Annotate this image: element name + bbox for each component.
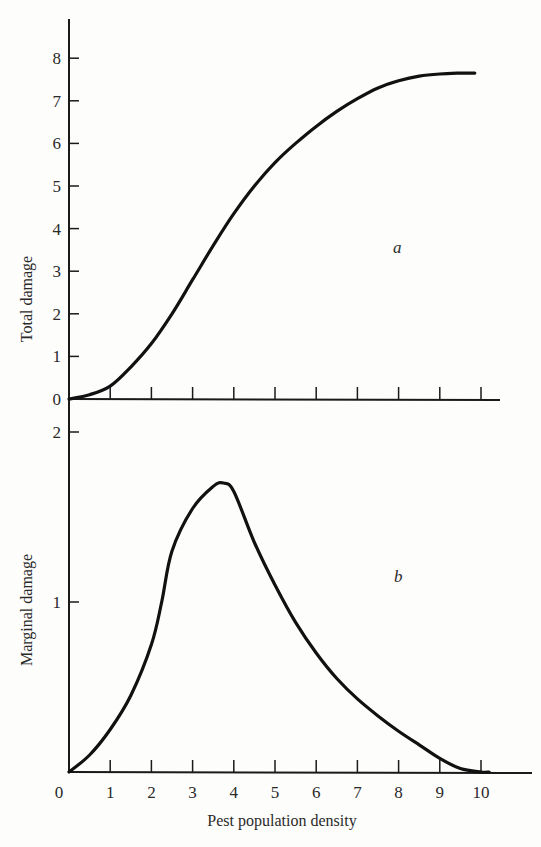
bottom-y-axis-title: Marginal damage: [18, 554, 36, 666]
x-tick-label: 3: [188, 783, 197, 802]
y-tick-label: 7: [53, 92, 62, 111]
panel-label-a: a: [393, 238, 402, 257]
top-x-ticks: [110, 387, 481, 399]
y-tick-label: 0: [53, 390, 62, 409]
y-tick-label: 4: [53, 220, 62, 239]
x-tick-label: 7: [353, 783, 362, 802]
x-tick-label: 6: [312, 783, 321, 802]
marginal-damage-curve: [69, 483, 489, 773]
y-tick-label: 2: [53, 305, 62, 324]
y-tick-label: 3: [53, 262, 62, 281]
bottom-x-axis: [69, 772, 532, 773]
x-axis-title: Pest population density: [207, 812, 356, 830]
bottom-y-ticks: 12: [53, 423, 80, 612]
top-y-ticks: 012345678: [53, 49, 80, 409]
damage-chart: 012345678 12 012345678910 Total damage M…: [0, 0, 541, 847]
y-tick-label: 2: [53, 423, 62, 442]
y-tick-label: 1: [53, 347, 62, 366]
x-tick-label: 5: [271, 783, 280, 802]
x-tick-label: 4: [230, 783, 239, 802]
total-damage-curve: [69, 73, 475, 399]
panel-label-b: b: [394, 567, 403, 586]
x-tick-label: 10: [473, 783, 490, 802]
y-tick-label: 5: [53, 177, 62, 196]
top-y-axis-title: Total damage: [18, 256, 36, 342]
x-tick-label: 9: [436, 783, 445, 802]
x-tick-label: 2: [147, 783, 156, 802]
top-x-axis: [69, 399, 500, 400]
y-tick-label: 8: [53, 49, 62, 68]
y-tick-label: 1: [53, 593, 62, 612]
x-tick-label: 1: [106, 783, 115, 802]
x-tick-label: 8: [394, 783, 403, 802]
bottom-x-ticks: 012345678910: [55, 760, 490, 802]
y-tick-label: 6: [53, 134, 62, 153]
x-tick-label: 0: [55, 783, 64, 802]
